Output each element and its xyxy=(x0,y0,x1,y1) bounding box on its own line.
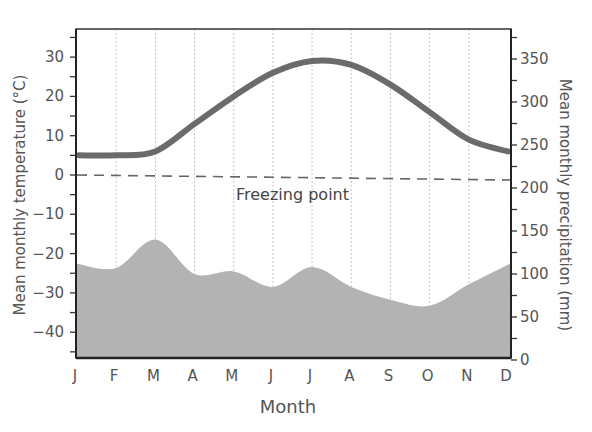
month-label: S xyxy=(384,367,394,385)
left-tick-label: −40 xyxy=(32,323,64,341)
left-axis-ticks: 3020100−10−20−30−40 xyxy=(32,37,76,351)
right-axis-ticks: 350300250200150100500 xyxy=(511,38,549,370)
month-label: F xyxy=(110,367,119,385)
left-axis-title: Mean monthly temperature (°C) xyxy=(11,75,29,316)
freezing-point-label: Freezing point xyxy=(236,185,349,204)
climate-chart: Freezing point 3020100−10−20−30−40 35030… xyxy=(0,0,592,432)
right-tick-label: 50 xyxy=(520,308,539,326)
left-tick-label: 20 xyxy=(45,87,64,105)
freezing-point-line xyxy=(77,175,510,180)
right-tick-label: 0 xyxy=(520,351,530,369)
left-tick-label: 10 xyxy=(45,127,64,145)
left-tick-label: −20 xyxy=(32,245,64,263)
month-label: D xyxy=(500,367,512,385)
right-tick-label: 150 xyxy=(520,222,549,240)
month-label: J xyxy=(268,367,273,385)
left-tick-label: −30 xyxy=(32,284,64,302)
left-tick-label: −10 xyxy=(32,205,64,223)
x-axis-title: Month xyxy=(260,396,316,417)
month-label: A xyxy=(344,367,355,385)
month-label: J xyxy=(72,367,77,385)
right-tick-label: 350 xyxy=(520,50,549,68)
right-tick-label: 100 xyxy=(520,265,549,283)
right-tick-label: 300 xyxy=(520,93,549,111)
precipitation-area xyxy=(77,240,510,358)
month-label: O xyxy=(422,367,434,385)
right-tick-label: 250 xyxy=(520,136,549,154)
month-label: M xyxy=(225,367,238,385)
right-axis-title: Mean monthly precipitation (mm) xyxy=(556,79,574,331)
month-label: M xyxy=(147,367,160,385)
month-label: J xyxy=(307,367,312,385)
left-tick-label: 0 xyxy=(54,166,64,184)
month-label: N xyxy=(461,367,472,385)
temperature-line xyxy=(79,61,508,156)
left-tick-label: 30 xyxy=(45,48,64,66)
month-label: A xyxy=(187,367,198,385)
right-tick-label: 200 xyxy=(520,179,549,197)
x-axis-labels: JFMAMJJASOND xyxy=(72,367,512,385)
